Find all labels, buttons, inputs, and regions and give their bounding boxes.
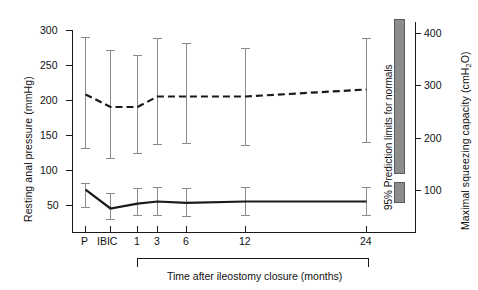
right-tick-label-400: 400: [424, 28, 442, 39]
errorbar-lower-6-cap-bottom: [182, 216, 191, 217]
errorbar-upper-P-cap-top: [81, 37, 90, 38]
left-tick-label-250: 250: [40, 60, 58, 71]
right-tick-300: [415, 85, 421, 86]
time-bracket: [137, 258, 369, 267]
errorbar-upper-IBIC-cap-bottom: [106, 158, 115, 159]
errorbar-upper-6: [186, 43, 187, 143]
right-tick-label-200: 200: [424, 133, 442, 144]
errorbar-lower-12-cap-bottom: [241, 215, 250, 216]
errorbar-upper-P-cap-bottom: [81, 148, 90, 149]
right-tick-label-100: 100: [424, 185, 442, 196]
right-axis-title: Maximal squeezing capacity (cmH2O): [459, 51, 471, 230]
errorbar-upper-IBIC-cap-top: [106, 50, 115, 51]
errorbar-lower-6-cap-top: [182, 188, 191, 189]
errorbar-lower-24-cap-top: [362, 187, 371, 188]
errorbar-lower-P-cap-top: [81, 183, 90, 184]
errorbar-lower-3-cap-bottom: [153, 215, 162, 216]
bottom-tick-IBIC: [110, 226, 111, 232]
errorbar-upper-1-cap-bottom: [133, 153, 142, 154]
bottom-tick-3: [157, 226, 158, 232]
errorbar-lower-IBIC-cap-bottom: [106, 219, 115, 220]
bottom-tick-label-6: 6: [183, 235, 189, 247]
left-tick-150: [66, 135, 72, 136]
right-tick-100: [415, 190, 421, 191]
errorbar-upper-12: [245, 48, 246, 145]
right-axis-title-post: O): [459, 51, 471, 63]
bottom-tick-label-3: 3: [154, 235, 160, 247]
bottom-axis-line: [72, 232, 416, 233]
bottom-tick-P: [85, 226, 86, 232]
prediction-bar-squeezing: [394, 19, 405, 174]
errorbar-upper-12-cap-top: [241, 48, 250, 49]
right-axis-title-pre: Maximal squeezing capacity (cmH: [459, 68, 471, 230]
errorbar-upper-24-cap-top: [362, 38, 371, 39]
bottom-tick-label-P: P: [81, 235, 88, 247]
errorbar-upper-1: [137, 55, 138, 153]
errorbar-upper-3: [157, 38, 158, 144]
errorbar-lower-1: [137, 188, 138, 215]
errorbar-upper-6-cap-bottom: [182, 143, 191, 144]
errorbar-upper-P: [85, 37, 86, 148]
left-tick-label-50: 50: [47, 200, 59, 211]
left-tick-label-150: 150: [40, 130, 58, 141]
right-tick-200: [415, 138, 421, 139]
errorbar-lower-P: [85, 183, 86, 207]
left-tick-200: [66, 100, 72, 101]
bottom-tick-24: [366, 226, 367, 232]
errorbar-lower-24-cap-bottom: [362, 215, 371, 216]
left-tick-50: [66, 205, 72, 206]
errorbar-upper-24-cap-bottom: [362, 142, 371, 143]
errorbar-lower-1-cap-bottom: [133, 215, 142, 216]
left-tick-300: [66, 30, 72, 31]
right-axis-title-subscript: 2: [464, 63, 473, 67]
prediction-limits-label: 95% Prediction limits for normals: [383, 64, 394, 210]
left-tick-label-100: 100: [40, 165, 58, 176]
bottom-tick-label-IBIC: IBIC: [97, 235, 117, 247]
left-axis-line: [72, 30, 73, 233]
series-line-squeezing-capacity: [86, 90, 367, 108]
bottom-tick-label-1: 1: [134, 235, 140, 247]
errorbar-lower-12-cap-top: [241, 187, 250, 188]
errorbar-upper-3-cap-top: [153, 38, 162, 39]
bottom-tick-6: [186, 226, 187, 232]
errorbar-upper-1-cap-top: [133, 55, 142, 56]
errorbar-upper-24: [366, 38, 367, 142]
errorbar-lower-3: [157, 187, 158, 215]
right-tick-400: [415, 33, 421, 34]
figure-chart: 300 250 200 150 100 50 Resting anal pres…: [0, 0, 478, 290]
left-axis-title: Resting anal pressure (mmHg): [22, 76, 34, 222]
right-tick-label-300: 300: [424, 80, 442, 91]
errorbar-lower-24: [366, 187, 367, 215]
errorbar-lower-1-cap-top: [133, 188, 142, 189]
errorbar-lower-IBIC: [110, 193, 111, 219]
left-tick-100: [66, 170, 72, 171]
bottom-tick-1: [137, 226, 138, 232]
errorbar-upper-3-cap-bottom: [153, 144, 162, 145]
errorbar-lower-IBIC-cap-top: [106, 193, 115, 194]
errorbar-upper-12-cap-bottom: [241, 145, 250, 146]
errorbar-lower-3-cap-top: [153, 187, 162, 188]
errorbar-lower-12: [245, 187, 246, 215]
errorbar-lower-P-cap-bottom: [81, 207, 90, 208]
left-tick-label-200: 200: [40, 95, 58, 106]
errorbar-upper-6-cap-top: [182, 43, 191, 44]
right-axis-line: [415, 22, 416, 233]
errorbar-lower-6: [186, 188, 187, 216]
left-tick-250: [66, 65, 72, 66]
bottom-tick-label-12: 12: [239, 235, 251, 247]
bottom-tick-12: [245, 226, 246, 232]
errorbar-upper-IBIC: [110, 50, 111, 158]
prediction-bar-resting: [394, 182, 405, 203]
bottom-axis-title: Time after ileostomy closure (months): [167, 270, 342, 282]
left-tick-label-300: 300: [40, 25, 58, 36]
bottom-tick-label-24: 24: [360, 235, 372, 247]
series-line-resting-pressure: [86, 190, 367, 209]
